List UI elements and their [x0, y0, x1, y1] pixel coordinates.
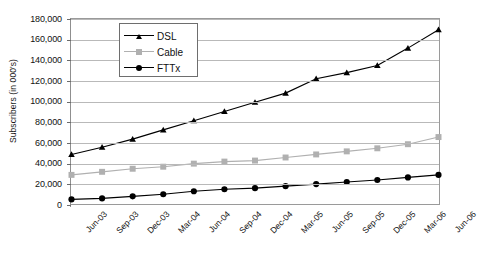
- y-tick-label: 120,000: [8, 76, 62, 86]
- legend-item-fttx: FTTx: [120, 60, 197, 76]
- chart-legend: DSL Cable FTTx: [119, 23, 198, 77]
- data-point: [283, 155, 289, 161]
- y-tick-mark: [67, 184, 71, 185]
- legend-item-dsl: DSL: [120, 28, 197, 44]
- y-tick-label: 40,000: [8, 158, 62, 168]
- x-tick-label: Jun-04: [206, 209, 231, 234]
- y-tick-label: 180,000: [8, 14, 62, 24]
- series-cable: [69, 134, 442, 178]
- data-point: [252, 185, 258, 191]
- y-tick-mark: [67, 81, 71, 82]
- legend-item-cable: Cable: [120, 44, 197, 60]
- x-tick-label: Jun-05: [329, 209, 354, 234]
- legend-label-fttx: FTTx: [157, 63, 180, 74]
- gridline: [71, 184, 439, 185]
- x-tick-label: Sep-04: [237, 209, 263, 235]
- gridline: [71, 81, 439, 82]
- x-tick-label: Sep-03: [114, 209, 140, 235]
- data-point: [344, 148, 350, 154]
- data-point: [130, 193, 136, 199]
- data-point: [221, 186, 227, 192]
- series-fttx: [68, 172, 441, 203]
- y-tick-mark: [67, 19, 71, 20]
- x-tick-label: Mar-06: [422, 209, 448, 235]
- gridline: [71, 143, 439, 144]
- x-tick-label: Dec-03: [145, 209, 171, 235]
- data-point: [435, 172, 441, 178]
- data-point: [68, 196, 74, 202]
- y-tick-mark: [67, 143, 71, 144]
- y-axis-tick-labels: 020,00040,00060,00080,000100,000120,0001…: [6, 0, 62, 258]
- data-point: [374, 145, 380, 151]
- y-tick-mark: [67, 205, 71, 206]
- data-point: [69, 172, 75, 178]
- x-tick-label: Sep-05: [360, 209, 386, 235]
- y-tick-label: 80,000: [8, 117, 62, 127]
- x-tick-label: Mar-04: [176, 209, 202, 235]
- y-tick-label: 140,000: [8, 55, 62, 65]
- legend-marker-fttx: [124, 62, 154, 74]
- data-point: [435, 27, 442, 33]
- y-tick-label: 0: [8, 200, 62, 210]
- gridline: [71, 122, 439, 123]
- legend-marker-cable: [124, 46, 154, 58]
- data-point: [374, 177, 380, 183]
- y-tick-mark: [67, 60, 71, 61]
- gridline: [71, 102, 439, 103]
- legend-label-dsl: DSL: [157, 31, 176, 42]
- y-tick-label: 20,000: [8, 179, 62, 189]
- y-tick-mark: [67, 40, 71, 41]
- data-point: [374, 62, 381, 68]
- y-tick-mark: [67, 122, 71, 123]
- data-point: [282, 90, 289, 96]
- data-point: [313, 151, 319, 157]
- gridline: [71, 164, 439, 165]
- data-point: [405, 174, 411, 180]
- x-tick-label: Jun-03: [83, 209, 108, 234]
- x-tick-label: Dec-05: [391, 209, 417, 235]
- y-tick-mark: [67, 164, 71, 165]
- data-point: [191, 188, 197, 194]
- legend-marker-dsl: [124, 30, 154, 42]
- x-tick-label: Jun-06: [452, 209, 477, 234]
- data-point: [405, 45, 412, 51]
- data-point: [99, 195, 105, 201]
- y-tick-label: 100,000: [8, 96, 62, 106]
- data-point: [160, 191, 166, 197]
- data-point: [99, 169, 105, 175]
- x-tick-label: Dec-04: [268, 209, 294, 235]
- y-tick-mark: [67, 102, 71, 103]
- data-point: [436, 134, 442, 140]
- y-tick-label: 160,000: [8, 34, 62, 44]
- gridline: [71, 19, 439, 20]
- x-tick-label: Mar-05: [299, 209, 325, 235]
- data-point: [252, 158, 258, 164]
- y-tick-label: 60,000: [8, 138, 62, 148]
- data-point: [130, 166, 136, 172]
- legend-label-cable: Cable: [157, 47, 183, 58]
